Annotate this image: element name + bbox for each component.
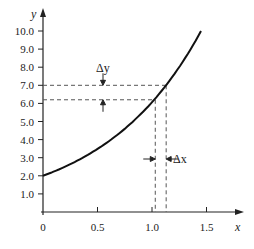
y-tick-label: 5.0 (20, 116, 34, 128)
chart: y x 1.02.03.04.05.06.07.08.09.010.0 00.5… (0, 0, 254, 249)
x-tick-label: 0 (40, 221, 46, 233)
y-tick-label: 10.0 (15, 25, 35, 37)
x-tick-label: 0.5 (91, 221, 105, 233)
y-axis-label: y (30, 7, 37, 21)
arrowhead (101, 80, 106, 85)
x-ticks: 00.51.01.5 (40, 207, 214, 233)
arrowhead (150, 157, 155, 162)
x-axis-label: x (234, 220, 241, 234)
x-axis-arrow-icon (235, 209, 244, 215)
delta-x-label: Δx (173, 152, 187, 166)
y-tick-label: 6.0 (20, 97, 34, 109)
y-tick-label: 2.0 (20, 170, 34, 182)
arrowhead (166, 157, 171, 162)
y-ticks: 1.02.03.04.05.06.07.08.09.010.0 (15, 25, 43, 200)
y-tick-label: 3.0 (20, 152, 34, 164)
y-tick-label: 1.0 (20, 188, 34, 200)
x-tick-label: 1.0 (145, 221, 159, 233)
delta-y-label: Δy (96, 61, 110, 75)
y-tick-label: 8.0 (20, 61, 34, 73)
y-tick-label: 7.0 (20, 79, 34, 91)
y-axis-arrow-icon (40, 8, 46, 17)
y-tick-label: 9.0 (20, 43, 34, 55)
x-tick-label: 1.5 (200, 221, 214, 233)
arrowhead (101, 100, 106, 105)
y-tick-label: 4.0 (20, 134, 34, 146)
